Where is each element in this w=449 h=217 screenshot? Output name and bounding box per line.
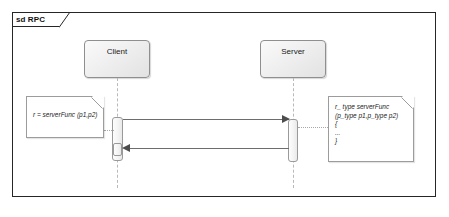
message-return-line[interactable] bbox=[125, 148, 289, 149]
frame-tab-slope-icon bbox=[59, 12, 70, 28]
lifeline-label-server: Server bbox=[281, 47, 305, 57]
note-server-impl[interactable]: r_ type serverFunc (p_type p1,p_type p2)… bbox=[328, 96, 414, 162]
activation-bar-client-nested[interactable] bbox=[113, 143, 122, 156]
message-call-line[interactable] bbox=[123, 119, 289, 120]
lifeline-label-client: Client bbox=[107, 47, 127, 57]
note-connector-client bbox=[104, 130, 114, 131]
note-dogear-icon-client bbox=[91, 97, 103, 109]
activation-bar-server[interactable] bbox=[288, 119, 298, 162]
lifeline-head-client[interactable]: Client bbox=[84, 40, 150, 78]
frame-label-text: sd RPC bbox=[16, 13, 45, 26]
frame-label-tab-slope bbox=[59, 12, 70, 28]
message-call-arrowhead-icon bbox=[282, 115, 290, 123]
note-connector-server bbox=[298, 127, 328, 128]
lifeline-head-server[interactable]: Server bbox=[260, 40, 326, 78]
note-client-call-text: r = serverFunc (p1,p2) bbox=[33, 111, 98, 120]
note-server-impl-text: r_ type serverFunc (p_type p1,p_type p2)… bbox=[335, 103, 408, 146]
message-return-arrowhead-icon bbox=[122, 144, 130, 152]
note-client-call[interactable]: r = serverFunc (p1,p2) bbox=[26, 96, 104, 138]
sequence-diagram-canvas: sd RPC Client Server r = serverFunc (p1,… bbox=[0, 0, 449, 217]
